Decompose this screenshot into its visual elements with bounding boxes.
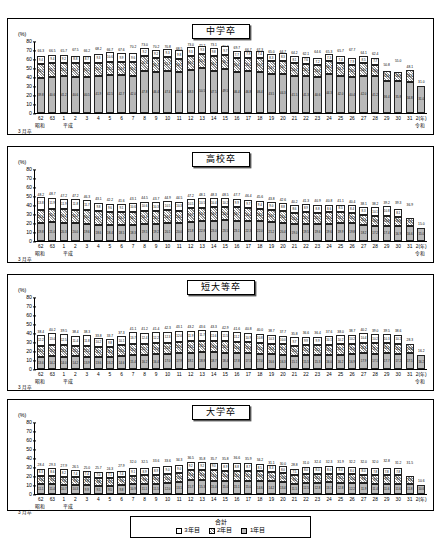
segment-year1: 17.0 xyxy=(163,354,171,369)
bar-total-label: 40.8 xyxy=(326,200,332,203)
segment-year3: 7.6 xyxy=(302,57,310,64)
y-tick-70: 70 xyxy=(10,304,32,309)
segment-year2: 10.1 xyxy=(163,474,171,483)
stacked-bar: 9.911.215.5 xyxy=(302,337,310,369)
x-label-62: 62 xyxy=(35,116,47,121)
segment-year3: 8.3 xyxy=(37,469,45,476)
stacked-bar: 10.414.923.0 xyxy=(210,198,218,241)
stacked-bar: 10.411.917.9 xyxy=(359,333,367,369)
bar-10: 42.312.312.817.0 xyxy=(162,298,174,369)
segment-year3: 7.9 xyxy=(348,58,356,65)
bar-total-label: 47.2 xyxy=(61,195,67,198)
bar-total-label: 43.6 xyxy=(199,326,205,329)
segment-year3: 8.5 xyxy=(336,205,344,213)
era-heisei-3: 平成 xyxy=(63,504,73,509)
panel-high-school: 高校卒 (%) 01020304050607080 48.213.815.619… xyxy=(7,146,434,263)
x-label-8: 8 xyxy=(139,372,151,377)
x-label-10: 10 xyxy=(162,244,174,249)
segment-year3: 10.2 xyxy=(371,334,379,343)
segment-year3: 7.9 xyxy=(244,51,252,58)
bar-total-label: 41.2 xyxy=(141,328,147,331)
segment-year3: 10.6 xyxy=(106,52,114,61)
bar-21: 64.28.114.641.5 xyxy=(289,42,301,113)
segment-year2: 14.0 xyxy=(117,212,125,224)
segment-year1: 42.0 xyxy=(359,76,367,113)
bar-total-label: 68.2 xyxy=(95,48,101,51)
segment-year2: 11.2 xyxy=(313,345,321,355)
segment-year2: 11.0 xyxy=(383,71,391,81)
bar-28: 32.07.89.711.4 xyxy=(369,423,381,494)
bar-total-label: 38.6 xyxy=(395,330,401,333)
x-label-1: 1 xyxy=(58,372,70,377)
bar-total-label: 35.7 xyxy=(211,458,217,461)
segment-year1: 46.4 xyxy=(152,72,160,113)
stacked-bar: 10.214.823.5 xyxy=(221,198,229,241)
segment-year1: 16.0 xyxy=(325,355,333,369)
stacked-bar: 9.315.041.9 xyxy=(94,54,102,113)
panel-university: 大学卒 (%) 01020304050607080 28.48.39.011.1… xyxy=(7,399,434,511)
stacked-bar: 10.912.417.5 xyxy=(244,333,252,369)
segment-year2: 10.0 xyxy=(348,474,356,483)
segment-year1: 15.7 xyxy=(187,480,195,494)
segment-year1: 20.1 xyxy=(163,223,171,241)
y-tick-80: 80 xyxy=(10,420,32,425)
stacked-bar: 10.817.5 xyxy=(406,344,414,369)
bar-31: 28.310.817.5 xyxy=(404,298,416,369)
bar-total-label: 39.5 xyxy=(61,330,67,333)
stacked-bar: 10.810.817.4 xyxy=(383,206,391,241)
segment-year2: 10.5 xyxy=(175,473,183,482)
stacked-bar: 9.911.215.3 xyxy=(313,337,321,369)
segment-year1: 13.2 xyxy=(106,357,114,369)
segment-year2: 14.9 xyxy=(117,62,125,75)
segment-year3: 8.1 xyxy=(394,209,402,216)
segment-year3: 9.2 xyxy=(198,462,206,470)
x-label-20: 20 xyxy=(277,244,289,249)
bar-total-label: 67.5 xyxy=(72,49,78,52)
x-label-9: 9 xyxy=(150,372,162,377)
bar-total-label: 34.2 xyxy=(257,459,263,462)
segment-year1: 31.0 xyxy=(417,86,425,114)
stacked-bar: 8.813.420.4 xyxy=(279,203,287,241)
bar-9: 70.29.215.346.4 xyxy=(150,42,162,113)
segment-year1: 20.0 xyxy=(175,223,183,241)
segment-year1: 19.6 xyxy=(325,224,333,241)
segment-year3: 10.2 xyxy=(336,335,344,344)
stacked-bar: 10.812.217.0 xyxy=(256,334,264,369)
segment-year3: 8.9 xyxy=(140,468,148,476)
bar-62: 48.213.815.619.8 xyxy=(35,170,47,241)
segment-year1: 41.3 xyxy=(302,76,310,113)
segment-year2: 14.7 xyxy=(233,207,241,220)
segment-year1: 13.6 xyxy=(37,357,45,369)
segment-year1: 16.6 xyxy=(406,226,414,241)
bar-total-label: 28.4 xyxy=(38,464,44,467)
bar-total-label: 31.0 xyxy=(303,462,309,465)
segment-year2: 12.9 xyxy=(48,345,56,356)
segment-year3: 10.8 xyxy=(383,206,391,216)
stacked-bar: 12.212.616.4 xyxy=(152,332,160,369)
segment-year3: 9.2 xyxy=(140,48,148,56)
bar-25: 41.18.512.719.9 xyxy=(335,170,347,241)
legend-swatch-s1 xyxy=(241,528,247,534)
x-label-14: 14 xyxy=(208,244,220,249)
bar-total-label: 26.5 xyxy=(72,466,78,469)
bar-22: 41.38.912.919.5 xyxy=(300,170,312,241)
unit-label-2: (%) xyxy=(18,287,26,293)
segment-year1: 16.2 xyxy=(417,355,425,369)
segment-year1: 19.0 xyxy=(290,224,298,241)
segment-year1: 35.8 xyxy=(394,81,402,113)
stacked-bar: 9.216.047.8 xyxy=(140,48,148,113)
segment-year1: 14.2 xyxy=(48,356,56,369)
bar-total-label: 31.9 xyxy=(337,461,343,464)
bar-12: 73.09.316.348.3 xyxy=(185,42,197,113)
bar-26: 40.48.412.219.8 xyxy=(346,170,358,241)
x-label-26: 26 xyxy=(346,244,358,249)
march-label-1: 3 月卒 xyxy=(18,257,32,262)
segment-year2: 12.2 xyxy=(256,343,264,354)
segment-year3: 9.9 xyxy=(313,337,321,346)
stacked-bar: 7.59.511.5 xyxy=(290,469,298,494)
stacked-bar: 11.812.213.9 xyxy=(83,335,91,369)
bar-1: 47.211.915.420.3 xyxy=(58,170,70,241)
y-tick-20: 20 xyxy=(10,93,32,98)
segment-year2: 15.0 xyxy=(94,63,102,76)
era-heisei-2: 平成 xyxy=(63,379,73,384)
